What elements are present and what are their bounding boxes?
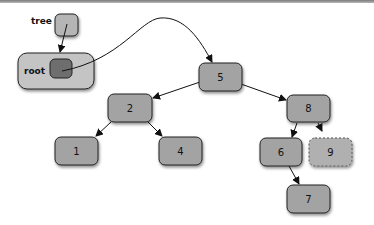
svg-text:7: 7 [305,194,311,205]
root-label: root [24,66,46,76]
edge-8-9 [318,123,322,131]
edge-6-7 [289,166,299,184]
tree-label: tree [31,16,52,26]
svg-text:8: 8 [305,103,311,114]
tree-diagram: tree root 5 2 8 1 4 6 9 7 [0,0,374,225]
edge-2-4 [148,122,162,136]
svg-text:9: 9 [327,147,333,158]
root-pointer-box [50,59,72,78]
svg-text:2: 2 [127,103,133,114]
node-5: 5 [199,63,242,91]
node-2: 2 [108,94,152,122]
svg-text:6: 6 [278,147,284,158]
svg-text:4: 4 [177,146,183,157]
edge-5-8 [241,84,286,100]
edge-5-2 [153,82,200,98]
node-7: 7 [287,185,330,213]
node-1: 1 [55,137,98,165]
node-6: 6 [260,138,302,166]
edge-8-6 [292,123,297,137]
edge-2-1 [96,122,111,136]
node-9-dashed: 9 [309,138,352,166]
svg-text:5: 5 [217,72,223,83]
node-4: 4 [159,137,202,165]
node-8: 8 [287,95,330,122]
svg-text:1: 1 [73,146,79,157]
